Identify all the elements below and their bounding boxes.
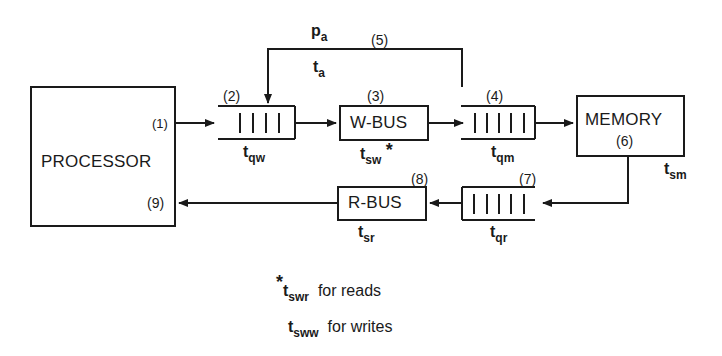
rbus-time: tsr [358, 224, 375, 244]
processor-label: PROCESSOR [41, 153, 151, 170]
edge-number-9: (9) [147, 196, 164, 210]
edge-number-5: (5) [371, 33, 388, 47]
write-queue-time: tqw [243, 144, 265, 164]
footnote-marker: * [386, 140, 393, 160]
rbus-number: (8) [411, 172, 428, 186]
memory-queue-shape [461, 106, 535, 139]
memory-queue-time: tqm [491, 144, 514, 164]
feedback-probability: pa [311, 23, 327, 43]
edge-number-1: (1) [152, 117, 168, 130]
wbus-label: W-BUS [350, 114, 407, 131]
read-queue-shape [462, 187, 535, 220]
memory-number: (6) [616, 134, 633, 148]
rbus-label: R-BUS [348, 194, 402, 211]
read-queue-time: tqr [490, 224, 507, 244]
footnote-writes: tsww for writes [288, 319, 392, 339]
write-queue-number: (2) [223, 89, 240, 103]
memory-time: tsm [664, 161, 687, 181]
footnote-reads: *tswr for reads [276, 281, 381, 303]
edge-feedback-loop [268, 49, 462, 103]
memory-label: MEMORY [585, 111, 662, 128]
wbus-number: (3) [367, 89, 384, 103]
edge-memory-to-read-queue [543, 156, 628, 203]
wbus-time: tsw * [360, 144, 393, 166]
read-queue-number: (7) [519, 172, 536, 186]
write-queue-shape [218, 106, 295, 139]
feedback-time: ta [313, 59, 325, 79]
memory-queue-number: (4) [486, 89, 503, 103]
